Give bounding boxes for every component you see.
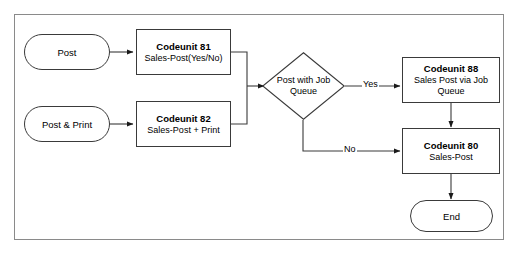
- terminator-post-and-print-label: Post & Print: [42, 119, 92, 130]
- process-codeunit-80[interactable]: Codeunit 80 Sales-Post: [402, 128, 500, 174]
- terminator-post[interactable]: Post: [24, 34, 110, 70]
- process-codeunit-82-title: Codeunit 82: [156, 113, 210, 125]
- edge-label-yes: Yes: [362, 79, 379, 89]
- process-codeunit-88[interactable]: Codeunit 88 Sales Post via Job Queue: [402, 57, 500, 103]
- terminator-post-and-print[interactable]: Post & Print: [24, 106, 110, 142]
- decision-diamond-shape: [262, 52, 345, 120]
- flowchart-canvas: Post Post & Print Codeunit 81 Sales-Post…: [0, 0, 519, 257]
- terminator-end-label: End: [443, 211, 460, 222]
- process-codeunit-88-subtitle: Sales Post via Job Queue: [405, 75, 497, 97]
- terminator-end[interactable]: End: [410, 200, 493, 232]
- process-codeunit-81-subtitle: Sales-Post(Yes/No): [144, 53, 222, 64]
- terminator-post-label: Post: [57, 47, 76, 58]
- process-codeunit-81-title: Codeunit 81: [156, 41, 210, 53]
- decision-post-with-job-queue[interactable]: Post with Job Queue: [262, 52, 345, 120]
- process-codeunit-82[interactable]: Codeunit 82 Sales-Post + Print: [136, 101, 231, 147]
- process-codeunit-80-title: Codeunit 80: [424, 140, 478, 152]
- process-codeunit-82-subtitle: Sales-Post + Print: [147, 125, 219, 136]
- process-codeunit-88-title: Codeunit 88: [424, 63, 478, 75]
- process-codeunit-81[interactable]: Codeunit 81 Sales-Post(Yes/No): [136, 29, 231, 75]
- process-codeunit-80-subtitle: Sales-Post: [429, 152, 473, 163]
- edge-label-no: No: [343, 144, 357, 154]
